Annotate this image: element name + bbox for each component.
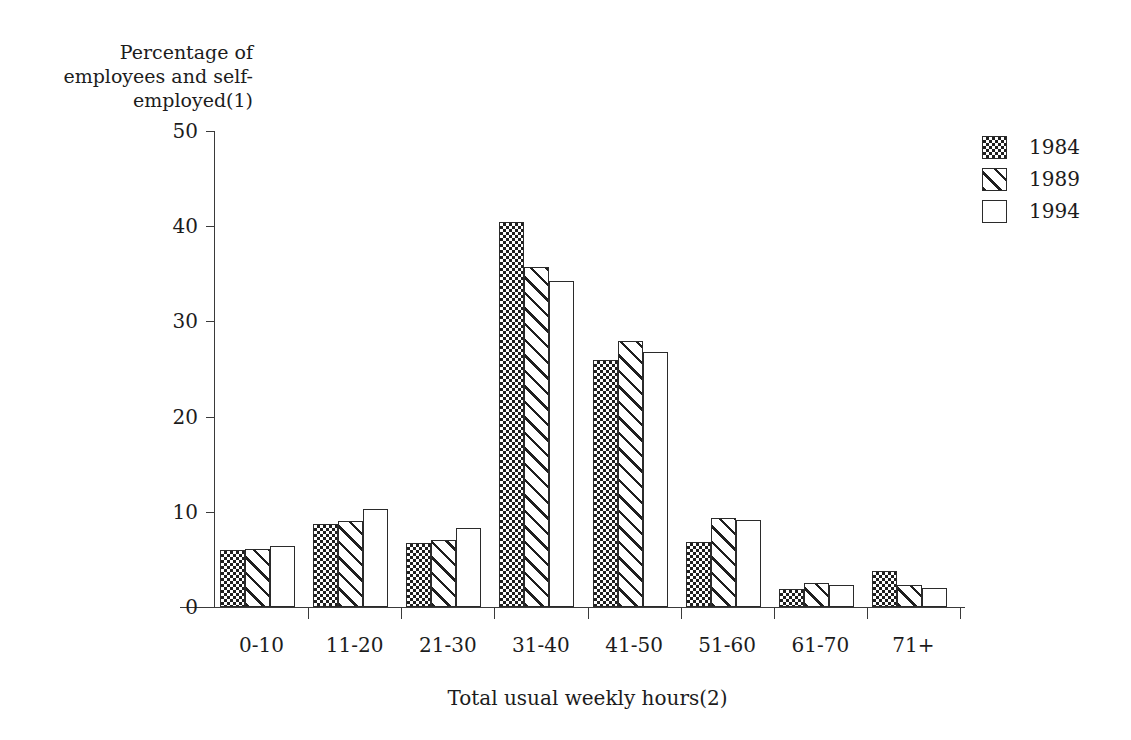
bar-1994-61-70 bbox=[829, 585, 854, 607]
x-tick-label: 61-70 bbox=[774, 634, 867, 656]
bar-1989-11-20 bbox=[338, 521, 363, 607]
bar-1989-21-30 bbox=[431, 540, 456, 607]
bar-1989-61-70 bbox=[804, 583, 829, 607]
bar-chart: Percentage of employees and self- employ… bbox=[0, 0, 1131, 740]
bar-1984-51-60 bbox=[686, 542, 711, 607]
x-tick-label: 51-60 bbox=[681, 634, 774, 656]
y-tick-label: 30 bbox=[152, 311, 198, 331]
bar-1984-71+ bbox=[872, 571, 897, 607]
legend-swatch-diagonal-icon bbox=[982, 168, 1007, 191]
legend-swatch-blank-icon bbox=[982, 200, 1007, 223]
legend-item-1984: 1984 bbox=[982, 131, 1080, 163]
bar-1994-31-40 bbox=[549, 281, 574, 607]
y-tick-label: 50 bbox=[152, 121, 198, 141]
x-tick-mark bbox=[774, 608, 775, 619]
x-tick-label: 41-50 bbox=[588, 634, 681, 656]
bar-1989-71+ bbox=[897, 585, 922, 607]
legend-label: 1984 bbox=[1029, 137, 1080, 157]
x-tick-label: 21-30 bbox=[401, 634, 494, 656]
x-tick-mark bbox=[960, 608, 961, 619]
x-tick-label: 11-20 bbox=[308, 634, 401, 656]
bar-1994-0-10 bbox=[270, 546, 295, 607]
x-axis-title: Total usual weekly hours(2) bbox=[215, 686, 960, 710]
x-tick-mark bbox=[308, 608, 309, 619]
y-tick-mark bbox=[206, 512, 215, 513]
bar-1984-0-10 bbox=[220, 550, 245, 607]
bar-1984-21-30 bbox=[406, 543, 431, 607]
bar-1994-41-50 bbox=[643, 352, 668, 607]
bar-1989-31-40 bbox=[524, 267, 549, 607]
legend-item-1989: 1989 bbox=[982, 163, 1080, 195]
x-tick-mark bbox=[681, 608, 682, 619]
x-axis-line bbox=[180, 607, 965, 608]
x-tick-mark bbox=[494, 608, 495, 619]
bar-1994-71+ bbox=[922, 588, 947, 607]
y-tick-mark bbox=[206, 226, 215, 227]
y-tick-label: 40 bbox=[152, 216, 198, 236]
legend-item-1994: 1994 bbox=[982, 195, 1080, 227]
bar-1989-41-50 bbox=[618, 341, 643, 607]
x-tick-mark bbox=[867, 608, 868, 619]
y-tick-mark bbox=[206, 131, 215, 132]
y-tick-mark bbox=[206, 607, 215, 608]
bar-1994-11-20 bbox=[363, 509, 388, 607]
bar-1994-51-60 bbox=[736, 520, 761, 607]
bar-1984-31-40 bbox=[499, 222, 524, 607]
bar-1984-11-20 bbox=[313, 524, 338, 607]
x-tick-label: 0-10 bbox=[215, 634, 308, 656]
legend-swatch-checker-icon bbox=[982, 136, 1007, 159]
legend-label: 1989 bbox=[1029, 169, 1080, 189]
x-tick-mark bbox=[401, 608, 402, 619]
y-tick-label: 20 bbox=[152, 407, 198, 427]
bar-1989-0-10 bbox=[245, 549, 270, 607]
bar-1994-21-30 bbox=[456, 528, 481, 607]
x-tick-mark bbox=[588, 608, 589, 619]
legend-label: 1994 bbox=[1029, 201, 1080, 221]
chart-legend: 198419891994 bbox=[982, 131, 1080, 227]
y-tick-mark bbox=[206, 417, 215, 418]
y-tick-label: 0 bbox=[152, 597, 198, 617]
y-tick-label: 10 bbox=[152, 502, 198, 522]
x-tick-label: 31-40 bbox=[494, 634, 587, 656]
y-axis-title: Percentage of employees and self- employ… bbox=[48, 40, 253, 112]
x-tick-label: 71+ bbox=[867, 634, 960, 656]
bar-1984-41-50 bbox=[593, 360, 618, 607]
bar-1984-61-70 bbox=[779, 589, 804, 607]
y-tick-mark bbox=[206, 321, 215, 322]
bars-layer bbox=[215, 131, 960, 607]
bar-1989-51-60 bbox=[711, 518, 736, 607]
